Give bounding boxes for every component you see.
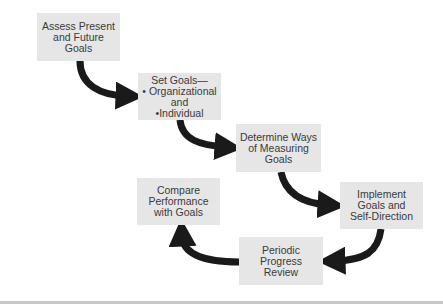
step-determine-measures: Determine Ways of Measuring Goals xyxy=(236,124,321,172)
arrow-3-to-4 xyxy=(281,172,328,205)
step-implement-goals: Implement Goals and Self-Direction xyxy=(340,182,423,229)
arrow-4-to-5 xyxy=(335,229,381,261)
step-set-goals: Set Goals— • Organizational and •Individ… xyxy=(138,73,221,120)
arrow-1-to-2 xyxy=(80,61,126,96)
step-periodic-review: Periodic Progress Review xyxy=(239,237,323,285)
step-assess-goals: Assess Present and Future Goals xyxy=(37,13,120,61)
arrow-5-to-6 xyxy=(182,236,239,262)
arrow-2-to-3 xyxy=(180,120,225,147)
step-compare-performance: Compare Performance with Goals xyxy=(137,178,220,225)
bottom-divider xyxy=(0,301,443,304)
